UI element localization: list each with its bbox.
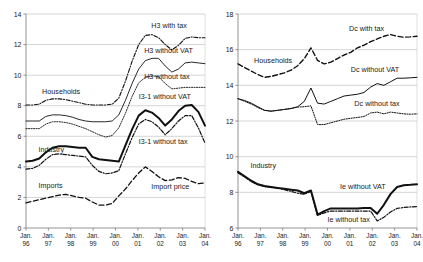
- x-tick-label: Jan.: [254, 232, 266, 239]
- x-tick-label: Jan.: [199, 232, 211, 239]
- x-tick-label: 99: [301, 240, 309, 247]
- x-tick-label: 96: [22, 240, 30, 247]
- y-tick-label: 0: [18, 225, 22, 232]
- y-tick-label: 8: [18, 102, 22, 109]
- y-tick-label: 4: [18, 163, 22, 170]
- y-tick-label: 6: [18, 133, 22, 140]
- x-tick-label: 03: [391, 240, 399, 247]
- x-tick-label: 04: [413, 240, 421, 247]
- group-label: Industry: [250, 161, 276, 170]
- left-chart-panel: 02468101214Jan.96Jan.97Jan.98Jan.99Jan.0…: [0, 0, 212, 262]
- y-tick-label: 12: [225, 118, 233, 125]
- series-annotation-label: Import price: [151, 182, 189, 191]
- y-tick-label: 18: [225, 11, 233, 18]
- x-tick-label: Jan.: [87, 232, 99, 239]
- x-tick-label: Jan.: [42, 232, 54, 239]
- series-line: [238, 173, 417, 221]
- series-line: [238, 172, 417, 215]
- series-annotation-label: H3 without tax: [144, 72, 190, 81]
- group-label: Households: [42, 87, 80, 96]
- y-tick-label: 14: [14, 11, 22, 18]
- group-label: Households: [254, 56, 292, 65]
- series-annotation-label: I3-1 without tax: [139, 137, 188, 146]
- y-tick-label: 10: [14, 72, 22, 79]
- y-tick-label: 14: [225, 82, 233, 89]
- x-tick-label: 04: [201, 240, 209, 247]
- x-tick-label: Jan.: [231, 232, 243, 239]
- series-line: [26, 76, 205, 137]
- x-tick-label: Jan.: [299, 232, 311, 239]
- x-tick-label: Jan.: [343, 232, 355, 239]
- x-tick-label: Jan.: [366, 232, 378, 239]
- series-annotation-label: Ie without VAT: [340, 182, 386, 191]
- series-annotation-label: Dc without VAT: [350, 65, 399, 74]
- x-tick-label: 97: [45, 240, 53, 247]
- x-tick-label: Jan.: [177, 232, 189, 239]
- group-label: Imports: [39, 181, 63, 190]
- y-tick-label: 12: [14, 41, 22, 48]
- series-annotation-label: Ie without tax: [327, 215, 370, 224]
- series-annotation-label: Dc without tax: [354, 99, 400, 108]
- x-tick-label: Jan.: [276, 232, 288, 239]
- x-tick-label: Jan.: [65, 232, 77, 239]
- left-chart-svg: 02468101214Jan.96Jan.97Jan.98Jan.99Jan.0…: [0, 0, 212, 262]
- x-tick-label: Jan.: [154, 232, 166, 239]
- x-tick-label: 02: [157, 240, 165, 247]
- x-tick-label: 98: [279, 240, 287, 247]
- x-tick-label: 97: [256, 240, 264, 247]
- y-tick-label: 16: [225, 46, 233, 53]
- x-tick-label: Jan.: [20, 232, 32, 239]
- two-panel-line-chart-figure: 02468101214Jan.96Jan.97Jan.98Jan.99Jan.0…: [0, 0, 423, 262]
- series-annotation-label: Dc with tax: [348, 24, 384, 33]
- y-tick-label: 6: [229, 225, 233, 232]
- right-chart-svg: 681012141618Jan.96Jan.97Jan.98Jan.99Jan.…: [212, 0, 423, 262]
- series-annotation-label: H3 without VAT: [144, 46, 193, 55]
- x-tick-label: 98: [67, 240, 75, 247]
- y-tick-label: 2: [18, 194, 22, 201]
- x-tick-label: 01: [134, 240, 142, 247]
- x-tick-label: Jan.: [321, 232, 333, 239]
- x-tick-label: 96: [234, 240, 242, 247]
- x-tick-label: 01: [346, 240, 354, 247]
- x-tick-label: 99: [90, 240, 98, 247]
- x-tick-label: Jan.: [410, 232, 422, 239]
- right-chart-panel: 681012141618Jan.96Jan.97Jan.98Jan.99Jan.…: [212, 0, 423, 262]
- series-annotation-label: H3 with tax: [151, 21, 187, 30]
- x-tick-label: 00: [112, 240, 120, 247]
- series-annotation-label: I3-1 without VAT: [139, 92, 192, 101]
- y-tick-label: 10: [225, 153, 233, 160]
- x-tick-label: 02: [368, 240, 376, 247]
- group-label: Industry: [39, 145, 65, 154]
- x-tick-label: Jan.: [109, 232, 121, 239]
- y-tick-label: 8: [229, 189, 233, 196]
- x-tick-label: 03: [179, 240, 187, 247]
- x-tick-label: Jan.: [132, 232, 144, 239]
- x-tick-label: Jan.: [388, 232, 400, 239]
- x-tick-label: 00: [323, 240, 331, 247]
